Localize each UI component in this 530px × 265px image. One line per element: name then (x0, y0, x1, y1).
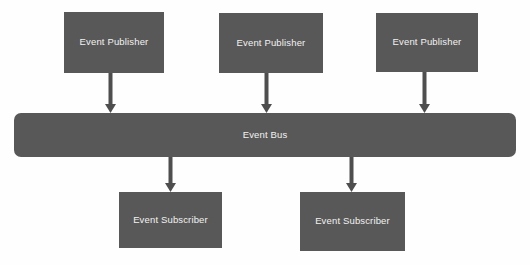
event-publisher-node-1[interactable]: Event Publisher (64, 12, 164, 73)
arrow-bus-to-subscriber-1 (165, 157, 176, 192)
arrow-publisher-2-to-bus (261, 73, 272, 113)
event-subscriber-node-1[interactable]: Event Subscriber (119, 192, 222, 248)
event-publisher-label-1: Event Publisher (80, 37, 149, 47)
event-publisher-node-3[interactable]: Event Publisher (376, 13, 478, 72)
event-bus-label: Event Bus (243, 130, 288, 140)
event-subscriber-label-2: Event Subscriber (315, 216, 390, 226)
event-subscriber-label-1: Event Subscriber (133, 215, 208, 225)
event-subscriber-node-2[interactable]: Event Subscriber (300, 192, 405, 251)
event-bus-bar[interactable]: Event Bus (14, 113, 516, 157)
arrow-publisher-1-to-bus (105, 73, 116, 113)
event-publisher-label-2: Event Publisher (237, 38, 306, 48)
event-publisher-label-3: Event Publisher (393, 37, 462, 47)
arrow-publisher-3-to-bus (419, 72, 430, 113)
event-publisher-node-2[interactable]: Event Publisher (219, 13, 323, 73)
arrow-bus-to-subscriber-2 (346, 157, 357, 192)
event-bus-diagram: Event Publisher Event Publisher Event Pu… (0, 0, 530, 265)
